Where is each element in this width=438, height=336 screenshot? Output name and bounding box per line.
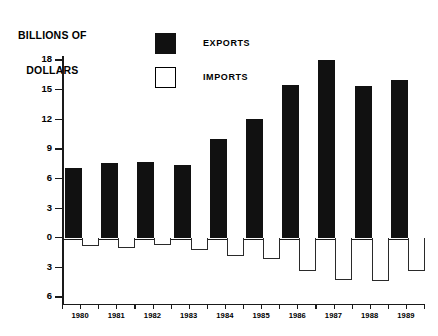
- chart-title-line-1: BILLIONS OF: [18, 30, 87, 42]
- x-tick-mark: [207, 304, 208, 309]
- x-tick-mark: [243, 304, 244, 309]
- legend-item-exports: EXPORTS: [155, 31, 305, 55]
- x-axis-label-1982: 1982: [134, 311, 170, 320]
- y-tick-mark: [55, 296, 63, 297]
- x-tick-mark: [406, 304, 407, 309]
- bar-chart: BILLIONS OF DOLLARS EXPORTS IMPORTS 1815…: [0, 0, 438, 336]
- bar-exports-1980: [65, 168, 82, 238]
- x-axis-label-1980: 1980: [62, 311, 98, 320]
- x-axis-label-1987: 1987: [315, 311, 351, 320]
- bar-exports-1981: [101, 163, 118, 238]
- y-tick-label-wrap: 3: [8, 208, 52, 220]
- x-tick-mark: [370, 304, 371, 309]
- bar-exports-1989: [391, 80, 408, 238]
- bar-imports-1980: [82, 238, 99, 246]
- bar-exports-1986: [282, 85, 299, 238]
- x-tick-mark: [225, 304, 226, 309]
- y-tick-label: 3: [16, 202, 52, 213]
- y-tick-label: 18: [16, 53, 52, 64]
- bar-exports-1985: [246, 119, 263, 238]
- y-tick-label-wrap: 0: [8, 237, 52, 249]
- y-tick-label: 3: [16, 261, 52, 272]
- y-tick-label-wrap: 6: [8, 296, 52, 308]
- y-tick-mark: [55, 237, 63, 238]
- x-tick-mark: [189, 304, 190, 309]
- x-tick-mark: [297, 304, 298, 309]
- bar-exports-1983: [174, 165, 191, 238]
- x-axis-label-1983: 1983: [171, 311, 207, 320]
- y-tick-label-wrap: 18: [8, 59, 52, 71]
- x-axis-label-1989: 1989: [388, 311, 424, 320]
- x-tick-mark: [261, 304, 262, 309]
- y-tick-mark: [55, 267, 63, 268]
- y-tick-label: 6: [16, 172, 52, 183]
- bar-exports-1982: [137, 162, 154, 238]
- x-tick-mark: [171, 304, 172, 309]
- x-axis-label-1985: 1985: [243, 311, 279, 320]
- x-tick-mark: [388, 304, 389, 309]
- y-tick-label-wrap: 9: [8, 148, 52, 160]
- x-tick-mark: [279, 304, 280, 309]
- x-axis-label-1986: 1986: [279, 311, 315, 320]
- bar-imports-1982: [154, 238, 171, 245]
- bar-imports-1988: [372, 238, 389, 281]
- x-tick-mark: [134, 304, 135, 309]
- x-tick-mark: [80, 304, 81, 309]
- x-tick-mark: [424, 304, 425, 309]
- bar-imports-1986: [299, 238, 316, 272]
- bar-imports-1987: [335, 238, 352, 280]
- legend-swatch-filled-square-icon: [155, 33, 176, 54]
- y-tick-mark: [55, 119, 63, 120]
- bar-imports-1981: [118, 238, 135, 248]
- y-tick-label-wrap: 6: [8, 178, 52, 190]
- y-tick-mark: [55, 208, 63, 209]
- bar-imports-1989: [408, 238, 425, 272]
- y-tick-label: 15: [16, 83, 52, 94]
- bar-imports-1985: [263, 238, 280, 260]
- legend-swatch-hollow-square-icon: [155, 67, 176, 88]
- y-tick-label: 6: [16, 290, 52, 301]
- x-axis-label-1984: 1984: [207, 311, 243, 320]
- legend-label-imports: IMPORTS: [203, 72, 248, 82]
- y-tick-label: 0: [16, 231, 52, 242]
- y-tick-label: 9: [16, 142, 52, 153]
- bar-exports-1987: [318, 60, 335, 238]
- y-tick-mark: [55, 178, 63, 179]
- x-axis-label-1981: 1981: [98, 311, 134, 320]
- y-tick-mark: [55, 148, 63, 149]
- x-axis-label-1988: 1988: [352, 311, 388, 320]
- y-tick-mark: [55, 89, 63, 90]
- y-tick-label-wrap: 3: [8, 267, 52, 279]
- x-tick-mark: [153, 304, 154, 309]
- bar-exports-1988: [355, 86, 372, 238]
- bar-imports-1984: [227, 238, 244, 256]
- y-tick-mark: [55, 59, 63, 60]
- x-tick-mark: [62, 304, 63, 309]
- bar-imports-1983: [191, 238, 208, 250]
- y-tick-label-wrap: 15: [8, 89, 52, 101]
- x-tick-mark: [352, 304, 353, 309]
- legend-label-exports: EXPORTS: [203, 38, 250, 48]
- x-tick-mark: [315, 304, 316, 309]
- bar-exports-1984: [210, 139, 227, 238]
- y-tick-label: 12: [16, 113, 52, 124]
- x-tick-mark: [334, 304, 335, 309]
- x-tick-mark: [98, 304, 99, 309]
- y-tick-label-wrap: 12: [8, 119, 52, 131]
- x-tick-mark: [116, 304, 117, 309]
